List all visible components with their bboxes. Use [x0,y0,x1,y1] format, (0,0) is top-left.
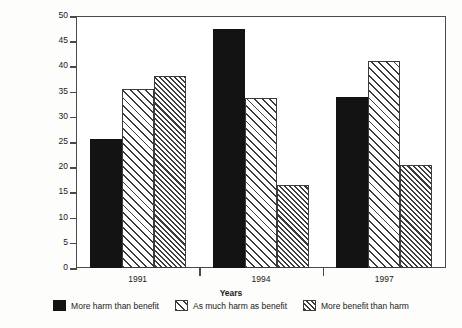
legend-item: More benefit than harm [303,300,409,311]
y-tick-mark [70,41,77,43]
bar [277,185,309,268]
legend-swatch-icon [303,300,316,311]
x-group-separator-tick [199,268,201,276]
bar [90,139,122,268]
legend-item: As much harm as benefit [175,300,287,311]
y-tick-label: 20 [44,161,68,172]
y-tick-mark [70,142,77,144]
legend-swatch-icon [175,300,188,311]
chart-legend: More harm than benefitAs much harm as be… [0,300,462,311]
bar [245,98,277,268]
y-tick-label: 15 [44,186,68,197]
y-tick-mark [70,218,77,220]
x-tick-label: 1994 [226,274,296,284]
legend-item: More harm than benefit [53,300,159,311]
y-tick-label: 35 [44,86,68,97]
y-tick-mark [70,192,77,194]
legend-label: More harm than benefit [71,301,159,311]
legend-swatch-icon [53,300,66,311]
bar [336,97,368,268]
y-tick-mark [70,167,77,169]
bar [122,89,154,268]
bar-chart: Per cent 05101520253035404550 1991199419… [0,0,462,328]
y-tick-label: 0 [44,262,68,273]
legend-label: As much harm as benefit [193,301,287,311]
y-tick-label: 30 [44,111,68,122]
legend-label: More benefit than harm [321,301,409,311]
y-tick-mark [70,66,77,68]
y-tick-label: 45 [44,35,68,46]
x-tick-label: 1997 [349,274,419,284]
y-tick-mark [70,92,77,94]
y-tick-mark [70,16,77,18]
bar [400,165,432,268]
y-tick-label: 5 [44,237,68,248]
x-axis-title: Years [0,288,462,298]
bar [213,29,245,268]
y-tick-label: 50 [44,10,68,21]
x-group-separator-tick [323,268,325,276]
bar [154,76,186,268]
y-tick-label: 10 [44,212,68,223]
y-tick-mark [70,243,77,245]
x-tick-label: 1991 [103,274,173,284]
y-tick-label: 25 [44,136,68,147]
y-tick-label: 40 [44,60,68,71]
y-tick-mark [70,117,77,119]
y-tick-mark [70,268,77,270]
bar [368,61,400,268]
